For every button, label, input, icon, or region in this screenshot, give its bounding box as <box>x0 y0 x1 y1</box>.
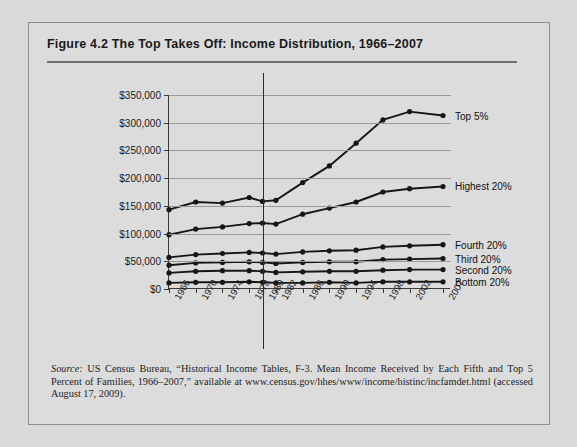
data-point <box>327 269 332 274</box>
data-point <box>300 280 305 285</box>
data-point <box>273 252 278 257</box>
data-point <box>354 269 359 274</box>
x-axis-tick <box>383 288 384 293</box>
data-point <box>193 269 198 274</box>
data-point <box>440 267 445 272</box>
y-axis-tick <box>164 123 169 124</box>
gridline <box>169 150 451 151</box>
y-axis-label: $150,000 <box>119 200 161 211</box>
data-point <box>380 279 385 284</box>
y-axis-label: $0 <box>150 284 161 295</box>
series-line <box>169 245 443 258</box>
data-point <box>354 199 359 204</box>
data-point <box>300 180 305 185</box>
y-axis-tick <box>164 95 169 96</box>
data-point <box>327 248 332 253</box>
y-axis-tick <box>164 150 169 151</box>
figure-container: Figure 4.2 The Top Takes Off: Income Dis… <box>28 22 550 425</box>
x-axis-tick <box>410 288 411 293</box>
reference-line-1980 <box>263 73 264 349</box>
income-distribution-chart: $0$50,000$100,000$150,000$200,000$250,00… <box>39 73 539 353</box>
y-axis-label: $250,000 <box>119 145 161 156</box>
source-text: US Census Bureau, “Historical Income Tab… <box>51 363 533 399</box>
gridline <box>169 178 451 179</box>
data-point <box>327 280 332 285</box>
data-point <box>220 224 225 229</box>
data-point <box>380 189 385 194</box>
data-point <box>247 279 252 284</box>
series-line <box>169 270 443 273</box>
data-point <box>166 280 171 285</box>
data-point <box>247 221 252 226</box>
data-point <box>300 269 305 274</box>
gridline <box>169 206 451 207</box>
data-point <box>220 251 225 256</box>
data-point <box>380 268 385 273</box>
data-point <box>440 113 445 118</box>
series-label: Fourth 20% <box>455 239 507 250</box>
x-axis-tick <box>329 288 330 293</box>
plot-area: $0$50,000$100,000$150,000$200,000$250,00… <box>168 95 450 289</box>
data-point <box>273 222 278 227</box>
x-axis-tick <box>356 288 357 293</box>
data-point <box>440 279 445 284</box>
gridline <box>169 95 451 96</box>
series-label: Top 5% <box>455 110 488 121</box>
data-point <box>440 184 445 189</box>
data-point <box>247 268 252 273</box>
y-axis-label: $300,000 <box>119 117 161 128</box>
x-axis-tick <box>276 288 277 293</box>
series-line <box>169 187 443 235</box>
title-divider <box>47 61 517 63</box>
x-axis-tick <box>303 288 304 293</box>
data-point <box>220 280 225 285</box>
data-point <box>166 207 171 212</box>
x-axis-tick <box>196 288 197 293</box>
data-point <box>327 163 332 168</box>
gridline <box>169 123 451 124</box>
y-axis-label: $350,000 <box>119 90 161 101</box>
data-point <box>220 268 225 273</box>
gridline <box>169 234 451 235</box>
data-point <box>193 280 198 285</box>
data-point <box>300 212 305 217</box>
data-point <box>407 243 412 248</box>
y-axis-tick <box>164 234 169 235</box>
data-point <box>407 186 412 191</box>
data-point <box>247 195 252 200</box>
x-axis-tick <box>222 288 223 293</box>
y-axis-tick <box>164 206 169 207</box>
data-point <box>166 263 171 268</box>
x-axis-tick <box>443 288 444 293</box>
series-label: Bottom 20% <box>455 276 509 287</box>
data-point <box>440 242 445 247</box>
data-point <box>380 244 385 249</box>
data-point <box>273 198 278 203</box>
data-point <box>166 270 171 275</box>
series-line <box>169 112 443 210</box>
x-axis-tick <box>169 288 170 293</box>
data-point <box>300 249 305 254</box>
data-point <box>193 227 198 232</box>
figure-page: Figure 4.2 The Top Takes Off: Income Dis… <box>0 0 577 447</box>
data-point <box>354 280 359 285</box>
y-axis-label: $100,000 <box>119 228 161 239</box>
data-point <box>407 279 412 284</box>
data-point <box>193 199 198 204</box>
data-point <box>407 267 412 272</box>
data-point <box>354 141 359 146</box>
series-label: Second 20% <box>455 264 512 275</box>
gridline <box>169 261 451 262</box>
y-axis-label: $200,000 <box>119 173 161 184</box>
series-lines <box>169 95 451 289</box>
source-label: Source: <box>51 363 83 374</box>
source-note: Source: US Census Bureau, “Historical In… <box>51 363 533 401</box>
y-axis-tick <box>164 261 169 262</box>
data-point <box>247 250 252 255</box>
data-point <box>166 255 171 260</box>
series-label: Highest 20% <box>455 181 512 192</box>
x-axis-tick <box>249 288 250 293</box>
series-label: Third 20% <box>455 253 501 264</box>
data-point <box>407 109 412 114</box>
data-point <box>273 270 278 275</box>
